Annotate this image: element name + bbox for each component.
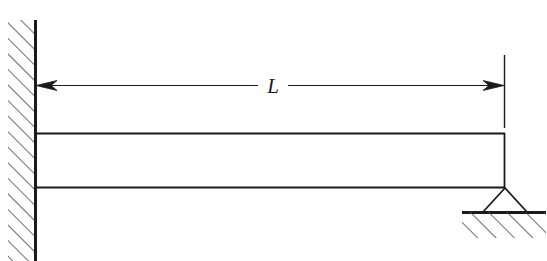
beam-diagram-canvas: L xyxy=(0,0,547,261)
dimension-label-L: L xyxy=(266,74,279,98)
wall-hatching-icon xyxy=(8,20,35,261)
ground-support xyxy=(462,212,546,238)
pin-support-triangle-icon xyxy=(483,188,527,212)
beam-member xyxy=(35,133,505,188)
pin-support xyxy=(483,188,527,212)
fixed-support-wall xyxy=(8,20,36,261)
dimension-line-L: L xyxy=(36,74,504,98)
beam-diagram-figure: L xyxy=(0,0,547,261)
ground-hatching-icon xyxy=(462,212,546,238)
